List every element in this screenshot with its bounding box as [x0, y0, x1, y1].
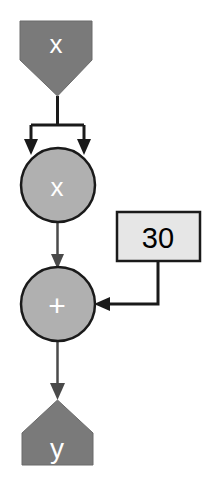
edge-multiply-to-add	[51, 222, 64, 269]
op-add-label: +	[48, 289, 66, 322]
arrowhead-into-add-right	[94, 297, 110, 311]
node-output-y[interactable]: y	[22, 400, 93, 465]
arrowhead-into-output-y	[50, 383, 65, 400]
const-30-label: 30	[142, 222, 174, 254]
edge-const-to-add	[94, 261, 158, 311]
edge-add-to-y	[50, 340, 65, 400]
node-op-multiply[interactable]: x	[21, 148, 95, 222]
arrowhead-right-into-multiply	[77, 139, 91, 155]
node-op-add[interactable]: +	[21, 267, 95, 341]
edge-x-to-multiply-left	[24, 96, 84, 155]
input-x-label: x	[50, 29, 63, 59]
node-input-x[interactable]: x	[20, 21, 92, 96]
op-multiply-label: x	[51, 172, 64, 202]
computation-graph: x x 30 + y	[0, 0, 212, 482]
diagram-canvas: x x 30 + y	[0, 0, 212, 482]
edge-x-to-multiply-right	[77, 125, 91, 155]
arrowhead-left-into-multiply	[24, 139, 38, 155]
output-y-label: y	[50, 433, 64, 464]
node-const-30[interactable]: 30	[117, 212, 200, 261]
